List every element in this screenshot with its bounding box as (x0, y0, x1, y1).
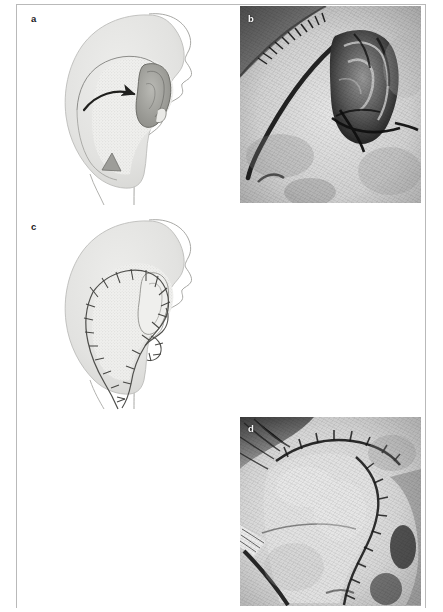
panel-b-label: b (248, 14, 254, 24)
page-rule-left (16, 4, 17, 608)
panel-a-illustration (18, 6, 232, 206)
panel-a-label: a (31, 14, 36, 24)
figure-page: a (0, 0, 443, 612)
panel-c: c (18, 214, 232, 410)
panel-d: d (240, 417, 421, 606)
panel-a: a (18, 6, 232, 206)
page-rule-right (425, 4, 426, 608)
panel-c-illustration (18, 214, 232, 410)
panel-b: b (240, 6, 421, 203)
panel-c-label: c (31, 222, 36, 232)
auricle (138, 273, 169, 335)
panel-d-label: d (248, 424, 254, 434)
auricle (136, 64, 171, 128)
page-rule-top (16, 4, 426, 5)
panel-b-grain (240, 6, 421, 203)
panel-d-grain (240, 417, 421, 606)
